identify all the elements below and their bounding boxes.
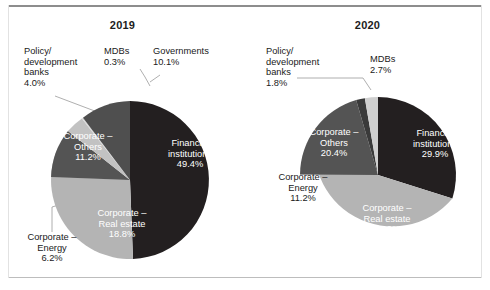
leader-line-governments-2019 — [150, 75, 160, 82]
slice-label-policy-development-banks-2020: Policy/ development banks 1.8% — [266, 46, 346, 88]
pie-slice-financial-institutions-2019 — [130, 101, 209, 259]
leader-line-mdbs-2019 — [140, 69, 150, 86]
pie-chart-2020 — [245, 0, 490, 290]
pie-panel-2019: 2019 Financial institutions 49. — [0, 0, 245, 290]
pie-panel-2020: 2020 Financial institutions 29.9% Corpor… — [245, 0, 490, 290]
slice-label-corporate-energy-2019: Corporate – Energy 6.2% — [4, 232, 100, 264]
slice-label-governments-2019: Governments 10.1% — [153, 46, 239, 67]
figure-canvas: 2019 Financial institutions 49. — [0, 0, 490, 290]
slice-label-mdbs-2020: MDBs 2.7% — [370, 54, 416, 75]
slice-label-policy-development-banks-2019: Policy/ development banks 4.0% — [24, 46, 102, 88]
slice-label-mdbs-2019: MDBs 0.3% — [104, 46, 150, 67]
